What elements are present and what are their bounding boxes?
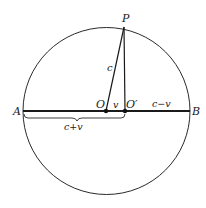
label-a: A	[12, 105, 21, 118]
label-c-minus-v: c−v	[152, 98, 171, 109]
segment-o-prime-p	[124, 27, 125, 111]
brace-a-to-o-prime	[24, 114, 125, 121]
label-c-plus-v: c+v	[64, 121, 83, 132]
geometry-figure: P c A O v O′ c−v B c+v	[0, 0, 206, 208]
label-v: v	[113, 99, 119, 110]
label-b: B	[191, 105, 200, 118]
label-o: O	[96, 98, 105, 111]
label-o-prime: O′	[126, 98, 138, 111]
diagram-canvas: P c A O v O′ c−v B c+v	[0, 0, 206, 208]
label-p: P	[121, 12, 130, 25]
label-c: c	[107, 62, 113, 73]
